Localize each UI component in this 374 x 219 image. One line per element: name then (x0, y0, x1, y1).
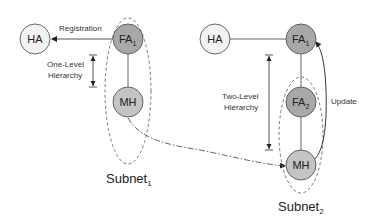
handoff-movement-path (128, 118, 285, 166)
one-level-label-line1: One-Level (47, 60, 84, 69)
two-level-label-line1: Two-Level (222, 92, 259, 101)
home-agent-node-left: HA (20, 24, 50, 54)
subnet-2-label: Subnet2 (278, 199, 324, 216)
foreign-agent-1-node-left: FA1 (113, 24, 143, 54)
mobile-host-node-right: MH (286, 150, 316, 180)
subnet-1-label: Subnet1 (106, 171, 152, 188)
foreign-agent-1-node-right: FA1 (286, 24, 316, 54)
registration-label: Registration (59, 24, 102, 33)
two-level-hierarchy-indicator (265, 55, 273, 150)
foreign-agent-2-node: FA2 (286, 87, 316, 117)
mh-label-right: MH (292, 159, 309, 171)
two-level-label-line2: Hierarchy (224, 103, 258, 112)
mobile-host-node-left: MH (113, 87, 143, 117)
ha-label-right: HA (207, 33, 223, 45)
one-level-hierarchy-indicator (89, 55, 97, 87)
one-level-label-line2: Hierarchy (48, 71, 82, 80)
mh-label-left: MH (119, 96, 136, 108)
ha-label-left: HA (27, 33, 43, 45)
update-label: Update (331, 97, 357, 106)
mobility-hierarchy-diagram: Registration One-Level Hierarchy HA FA1 … (0, 0, 374, 219)
home-agent-node-right: HA (200, 24, 230, 54)
